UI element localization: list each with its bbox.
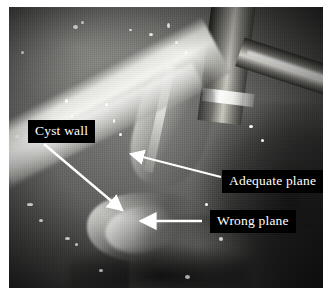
label-wrong-plane: Wrong plane bbox=[210, 210, 296, 233]
cyst-wall-arrow bbox=[44, 144, 122, 210]
label-adequate-plane: Adequate plane bbox=[222, 170, 323, 193]
label-cyst-wall: Cyst wall bbox=[28, 120, 95, 143]
adequate-plane-arrow bbox=[131, 154, 221, 177]
figure-container: Cyst wall Adequate plane Wrong plane bbox=[0, 0, 331, 297]
annotation-overlay: Cyst wall Adequate plane Wrong plane bbox=[0, 0, 331, 297]
